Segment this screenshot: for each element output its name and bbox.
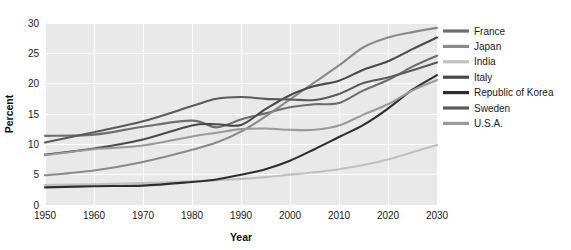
- line-chart: 0510152025301950196019701980199020002010…: [0, 0, 571, 250]
- y-axis-ticks: 051015202530: [28, 18, 40, 211]
- y-tick-label: 5: [33, 169, 39, 180]
- legend-label: Italy: [474, 72, 492, 83]
- x-tick-label: 2010: [328, 210, 351, 221]
- y-axis-title: Percent: [3, 94, 15, 133]
- legend-label: India: [474, 56, 496, 67]
- y-tick-label: 20: [28, 78, 40, 89]
- x-tick-label: 1980: [181, 210, 204, 221]
- x-tick-label: 2000: [279, 210, 302, 221]
- y-tick-label: 10: [28, 139, 40, 150]
- y-tick-label: 25: [28, 48, 40, 59]
- legend-label: Sweden: [474, 103, 510, 114]
- x-tick-label: 2020: [377, 210, 400, 221]
- x-tick-label: 1970: [132, 210, 155, 221]
- x-tick-label: 1950: [34, 210, 57, 221]
- legend-label: France: [474, 26, 506, 37]
- x-tick-label: 1960: [83, 210, 106, 221]
- legend: FranceJapanIndiaItalyRepublic of KoreaSw…: [443, 26, 554, 129]
- legend-label: Republic of Korea: [474, 87, 554, 98]
- y-tick-label: 30: [28, 18, 40, 29]
- y-tick-label: 15: [28, 109, 40, 120]
- x-axis-title: Year: [230, 231, 252, 243]
- chart-figure: 0510152025301950196019701980199020002010…: [0, 0, 571, 250]
- y-tick-label: 0: [33, 200, 39, 211]
- legend-label: Japan: [474, 41, 501, 52]
- legend-label: U.S.A.: [474, 118, 503, 129]
- x-tick-label: 1990: [230, 210, 253, 221]
- x-tick-label: 2030: [426, 210, 449, 221]
- x-axis-ticks: 195019601970198019902000201020202030: [34, 210, 449, 221]
